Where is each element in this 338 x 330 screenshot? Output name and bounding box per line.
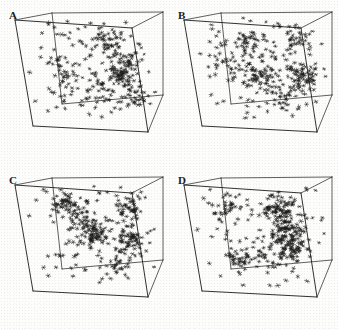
- panel-b-plot: [169, 0, 338, 165]
- panel-d-label: D: [178, 175, 186, 186]
- panel-c: C: [0, 165, 169, 330]
- panel-b-label: B: [178, 10, 185, 21]
- panel-c-plot: [0, 165, 169, 330]
- panel-a: A: [0, 0, 169, 165]
- figure-container: A B C D: [0, 0, 338, 330]
- panel-d: D: [169, 165, 338, 330]
- panel-d-plot: [169, 165, 338, 330]
- panel-c-label: C: [9, 175, 17, 186]
- panel-a-label: A: [9, 10, 17, 21]
- panel-b: B: [169, 0, 338, 165]
- panel-a-plot: [0, 0, 169, 165]
